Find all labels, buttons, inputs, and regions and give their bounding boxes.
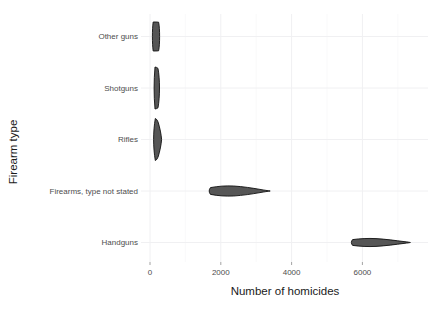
y-tick-label-handguns: Handguns [102,238,138,247]
y-tick-label-shotguns: Shotguns [104,84,138,93]
x-tick-label-2000: 2000 [212,268,230,277]
y-axis-title: Firearm type [7,120,19,185]
y-tick-label-other-guns: Other guns [98,32,138,41]
violin-chart: 0 2000 4000 6000 Other guns Shotguns Rif… [0,0,431,324]
violin-other-guns [152,22,159,51]
y-tick-label-firearms-type-not-stated: Firearms, type not stated [50,187,138,196]
plot-canvas: 0 2000 4000 6000 Other guns Shotguns Rif… [0,0,431,324]
x-tick-label-4000: 4000 [283,268,301,277]
violin-shotguns [154,67,159,109]
x-tick-label-0: 0 [148,268,153,277]
x-axis-title: Number of homicides [231,285,340,297]
y-tick-label-rifles: Rifles [118,135,138,144]
x-tick-label-6000: 6000 [354,268,372,277]
